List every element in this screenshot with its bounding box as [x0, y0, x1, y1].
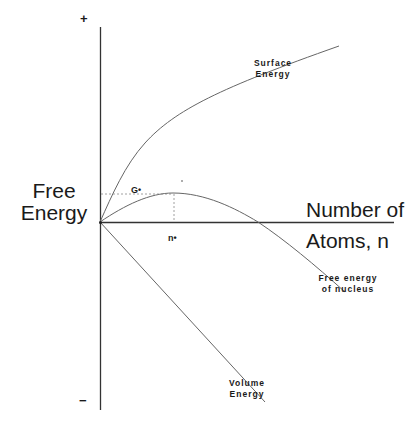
- surface-energy-curve: [100, 46, 339, 222]
- surface-energy-label-line1: Surface: [248, 58, 298, 69]
- nucleus-label-line2: of nucleus: [313, 284, 383, 295]
- y-axis-plus-sign: +: [80, 12, 88, 25]
- stray-mark: [181, 180, 183, 182]
- surface-energy-label-line2: Energy: [248, 69, 298, 80]
- y-axis-minus-sign: −: [79, 394, 87, 407]
- nucleus-label-line1: Free energy: [313, 273, 383, 284]
- x-axis-label-line2: Atoms, n: [305, 230, 390, 251]
- volume-energy-label-line2: Energy: [225, 389, 269, 400]
- y-axis-label-line2: Energy: [14, 202, 94, 223]
- y-axis-label-line1: Free: [24, 180, 84, 201]
- x-axis-label-line1: Number of: [300, 199, 410, 220]
- critical-energy-label: G•: [131, 186, 141, 195]
- volume-energy-line: [100, 222, 265, 402]
- origin-point: [99, 221, 102, 224]
- volume-energy-label-line1: Volume: [225, 378, 269, 389]
- nucleation-free-energy-diagram: + − Free Energy Number of Atoms, n G• n•…: [0, 0, 417, 424]
- critical-size-label: n•: [168, 234, 177, 243]
